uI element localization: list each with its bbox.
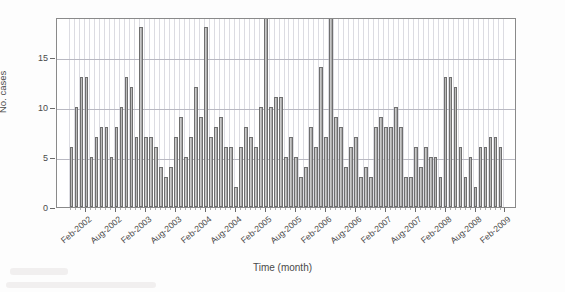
x-axis-minor-tick <box>375 208 376 210</box>
x-axis-minor-tick <box>390 208 391 210</box>
bar <box>314 147 318 207</box>
bar <box>424 147 428 207</box>
bar <box>75 107 79 207</box>
y-axis-tick-label: 0 <box>43 203 48 213</box>
x-axis-minor-tick <box>440 208 441 210</box>
x-axis-tick-mark <box>85 208 86 212</box>
bar <box>224 147 228 207</box>
x-axis-minor-tick <box>370 208 371 210</box>
x-axis-minor-tick <box>490 208 491 210</box>
x-axis-minor-tick <box>195 208 196 210</box>
bar <box>439 177 443 207</box>
bar <box>284 157 288 207</box>
x-axis-minor-tick <box>480 208 481 210</box>
x-axis-minor-tick <box>430 208 431 210</box>
bar <box>120 107 124 207</box>
bar <box>70 147 74 207</box>
x-axis-minor-tick <box>360 208 361 210</box>
figure: 051015 No. cases Feb-2002Aug-2002Feb-200… <box>0 0 565 292</box>
x-axis-minor-tick <box>310 208 311 210</box>
bar <box>379 117 383 207</box>
x-axis-minor-tick <box>270 208 271 210</box>
x-axis-minor-tick <box>130 208 131 210</box>
x-axis-minor-tick <box>155 208 156 210</box>
bar <box>399 127 403 207</box>
x-axis-tick-mark <box>205 208 206 212</box>
bar <box>384 127 388 207</box>
x-axis-tick-mark <box>265 208 266 212</box>
x-axis-tick-mark <box>235 208 236 212</box>
bar <box>254 147 258 207</box>
bar <box>499 147 503 207</box>
bar <box>144 137 148 207</box>
bar <box>80 77 84 207</box>
x-axis-tick-mark <box>325 208 326 212</box>
bar <box>369 177 373 207</box>
y-axis: 051015 <box>0 18 56 208</box>
x-axis-minor-tick <box>320 208 321 210</box>
x-axis-minor-tick <box>260 208 261 210</box>
bar <box>324 137 328 207</box>
bar <box>309 127 313 207</box>
bar <box>130 87 134 207</box>
bar <box>115 127 119 207</box>
bar <box>469 157 473 207</box>
x-axis-tick-labels: Feb-2002Aug-2002Feb-2003Aug-2003Feb-2004… <box>56 214 516 260</box>
y-axis-tick-mark <box>50 58 55 59</box>
bar <box>229 147 233 207</box>
x-axis-label: Time (month) <box>0 262 565 273</box>
bar <box>304 167 308 207</box>
x-axis-minor-tick <box>500 208 501 210</box>
x-axis-minor-tick <box>255 208 256 210</box>
x-axis-minor-tick <box>165 208 166 210</box>
x-axis-minor-tick <box>485 208 486 210</box>
bar <box>289 137 293 207</box>
x-axis-minor-tick <box>225 208 226 210</box>
x-axis-minor-tick <box>340 208 341 210</box>
x-axis-minor-tick <box>245 208 246 210</box>
x-axis-minor-tick <box>345 208 346 210</box>
plot-area <box>56 18 516 208</box>
bar <box>354 137 358 207</box>
x-axis-minor-tick <box>185 208 186 210</box>
bar <box>414 147 418 207</box>
x-axis-minor-tick <box>495 208 496 210</box>
bar <box>364 167 368 207</box>
y-axis-label: No. cases <box>0 71 8 113</box>
bar <box>449 77 453 207</box>
x-axis-minor-tick <box>135 208 136 210</box>
x-axis-minor-tick <box>210 208 211 210</box>
bar <box>149 137 153 207</box>
x-axis-tick-mark <box>295 208 296 212</box>
bar <box>199 117 203 207</box>
scan-artifact <box>6 282 156 288</box>
x-axis-minor-tick <box>365 208 366 210</box>
x-axis-minor-tick <box>455 208 456 210</box>
x-axis-minor-tick <box>305 208 306 210</box>
x-axis-tick-mark <box>175 208 176 212</box>
x-axis-minor-tick <box>125 208 126 210</box>
x-axis-minor-tick <box>460 208 461 210</box>
x-axis-minor-tick <box>250 208 251 210</box>
bar <box>479 147 483 207</box>
x-axis-minor-tick <box>335 208 336 210</box>
bar <box>299 177 303 207</box>
bar <box>249 137 253 207</box>
x-axis-minor-tick <box>70 208 71 210</box>
bar <box>404 177 408 207</box>
bar <box>209 137 213 207</box>
x-axis-minor-tick <box>160 208 161 210</box>
bar <box>194 87 198 207</box>
bar <box>184 157 188 207</box>
x-axis-tick-mark <box>385 208 386 212</box>
x-axis-minor-tick <box>200 208 201 210</box>
bar <box>459 147 463 207</box>
x-axis-minor-tick <box>315 208 316 210</box>
bar <box>454 87 458 207</box>
x-axis-minor-tick <box>275 208 276 210</box>
x-axis-minor-tick <box>280 208 281 210</box>
x-axis-minor-tick <box>120 208 121 210</box>
bar <box>90 157 94 207</box>
x-axis-minor-tick <box>300 208 301 210</box>
bar-series <box>57 19 515 207</box>
